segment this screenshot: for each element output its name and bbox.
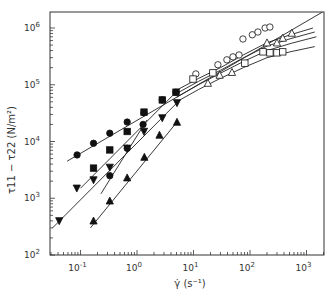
data-point-square [173, 89, 179, 95]
y-tick-label: 102 [24, 248, 40, 260]
y-tick-label: 106 [24, 21, 40, 33]
data-point-triangle-down [140, 128, 147, 135]
data-point-triangle-up [173, 118, 180, 125]
data-points [56, 24, 296, 225]
data-point-triangle-up [124, 174, 131, 181]
data-point-circle [215, 62, 221, 68]
data-point-triangle-down [73, 185, 80, 192]
y-axis-label: τ11 − τ22 (N/m²) [6, 106, 17, 194]
data-point-square [90, 165, 96, 171]
data-point-circle [74, 152, 80, 158]
data-point-triangle-down [90, 177, 97, 184]
data-point-triangle-up [263, 39, 270, 46]
chart: 10-1100101102103102103104105106 γ̇ (s⁻¹)… [0, 0, 336, 297]
fit-line [90, 122, 177, 228]
data-point-circle [107, 172, 113, 178]
data-point-square [242, 60, 248, 66]
x-tick-label: 100 [126, 261, 142, 273]
y-tick-label: 105 [24, 78, 40, 90]
x-tick-label: 10-1 [68, 261, 86, 273]
x-axis-label: γ̇ (s⁻¹) [174, 278, 205, 289]
data-point-triangle-up [156, 131, 163, 138]
data-point-square [107, 147, 113, 153]
data-point-square [210, 70, 216, 76]
x-tick-label: 102 [239, 261, 255, 273]
data-point-circle [240, 36, 246, 42]
data-point-circle [124, 145, 130, 151]
data-point-circle [236, 52, 242, 58]
data-point-square [267, 50, 273, 56]
fit-curve [176, 37, 316, 98]
data-point-circle [140, 121, 146, 127]
axis-labels: 10-1100101102103102103104105106 [24, 21, 311, 273]
data-point-triangle-up [288, 29, 295, 36]
y-tick-label: 103 [24, 191, 40, 203]
x-tick-label: 101 [183, 261, 199, 273]
data-point-circle [230, 54, 236, 60]
x-tick-label: 103 [296, 261, 312, 273]
data-point-triangle-up [141, 153, 148, 160]
fit-line [53, 103, 177, 228]
data-point-square [190, 76, 196, 82]
data-point-square [260, 49, 266, 55]
data-point-circle [124, 119, 130, 125]
data-point-square [280, 49, 286, 55]
data-point-circle [255, 29, 261, 35]
fit-curves [53, 12, 323, 228]
data-point-circle [90, 140, 96, 146]
data-point-square [159, 97, 165, 103]
y-tick-label: 104 [24, 135, 40, 147]
data-point-circle [267, 24, 273, 30]
data-point-circle [224, 57, 230, 63]
data-point-square [124, 128, 130, 134]
data-point-circle [107, 130, 113, 136]
data-point-square [141, 109, 147, 115]
